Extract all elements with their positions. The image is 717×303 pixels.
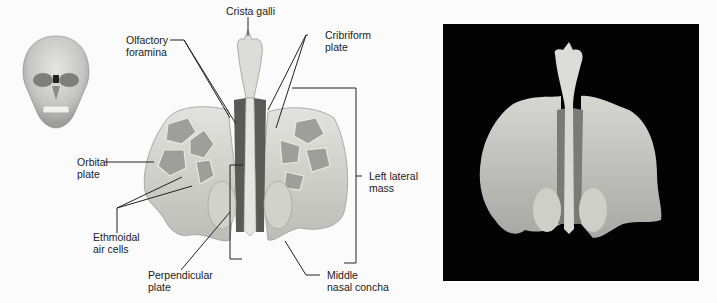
specimen-photo-panel — [443, 24, 699, 281]
label-orbital-plate: Orbital plate — [77, 156, 108, 180]
label-middle-nasal-concha: Middle nasal concha — [327, 269, 389, 293]
skull-icon — [23, 36, 89, 128]
label-olfactory-foramina: Olfactory foramina — [126, 34, 168, 58]
ethmoid-bone-illustration — [144, 30, 347, 241]
label-perpendicular-plate: Perpendicular plate — [148, 269, 213, 293]
specimen-photo — [443, 24, 699, 281]
label-crista-galli: Crista galli — [226, 5, 275, 17]
label-cribriform-plate: Cribriform plate — [325, 29, 371, 53]
label-ethmoidal-air-cells: Ethmoidal air cells — [93, 231, 140, 255]
label-left-lateral-mass: Left lateral mass — [369, 170, 418, 194]
